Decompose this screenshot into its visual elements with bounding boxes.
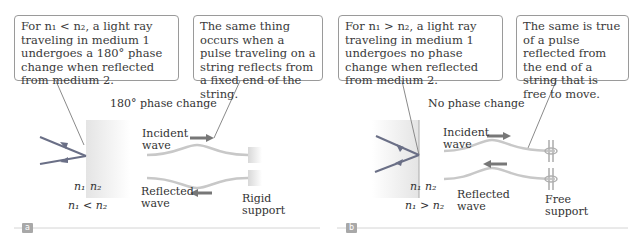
callout-light-ray-b: For n₁ > n₂, a light ray traveling in me… bbox=[338, 15, 503, 81]
panel-tag-b: b bbox=[346, 223, 357, 233]
reflected-label-b-2: wave bbox=[457, 201, 486, 213]
panel-tag-a: a bbox=[22, 223, 33, 233]
rigid-wall-top bbox=[248, 147, 262, 163]
medium-n1-label-a: n₁ bbox=[74, 181, 86, 193]
medium-n1-label-b: n₁ bbox=[410, 181, 422, 193]
index-relation-b: n₁ > n₂ bbox=[405, 200, 444, 212]
reflected-string bbox=[444, 168, 555, 179]
incident-ray bbox=[40, 156, 86, 164]
phase-label-a: 180° phase change bbox=[110, 98, 217, 110]
support-label-b-2: support bbox=[545, 206, 588, 218]
callout-light-ray-a: For n₁ < n₂, a light ray traveling in me… bbox=[14, 15, 179, 81]
support-label-a-2: support bbox=[242, 205, 285, 217]
reflected-ray bbox=[40, 137, 86, 156]
index-relation-a: n₁ < n₂ bbox=[68, 200, 107, 212]
reflected-label-a-2: wave bbox=[141, 198, 170, 210]
incident-label-a-2: wave bbox=[142, 140, 171, 152]
rigid-wall-bottom bbox=[248, 170, 262, 186]
medium-n2-label-b: n₂ bbox=[425, 181, 437, 193]
medium-n2-label-a: n₂ bbox=[90, 181, 102, 193]
callout-string-b: The same is true of a pulse reflected fr… bbox=[516, 15, 629, 81]
callout-string-a: The same thing occurs when a pulse trave… bbox=[193, 15, 323, 81]
incident-label-b-2: wave bbox=[443, 139, 472, 151]
phase-label-b: No phase change bbox=[428, 98, 525, 110]
